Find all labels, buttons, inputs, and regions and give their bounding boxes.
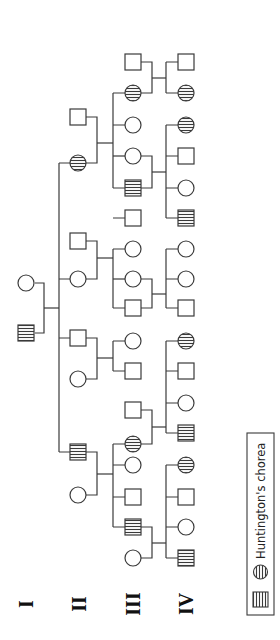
female-unaffected-symbol [178, 180, 194, 196]
generation-labels: I II III IV [15, 592, 197, 616]
generation-1 [18, 275, 34, 341]
male-unaffected-symbol [70, 109, 86, 125]
male-affected-symbol [178, 550, 194, 566]
legend: Huntington's chorea [247, 433, 274, 615]
female-unaffected-symbol [18, 275, 34, 291]
female-unaffected-symbol [178, 395, 194, 411]
female-unaffected-symbol [70, 487, 86, 503]
female-affected-symbol [178, 457, 194, 473]
female-unaffected-symbol [125, 271, 141, 287]
female-unaffected-symbol [125, 333, 141, 349]
male-unaffected-symbol [178, 489, 194, 505]
male-unaffected-symbol [125, 54, 141, 70]
male-unaffected-symbol [70, 330, 86, 346]
generation-4 [178, 54, 194, 566]
female-affected-symbol [178, 85, 194, 101]
pedigree-lines [35, 62, 178, 558]
male-unaffected-symbol [70, 233, 86, 249]
female-affected-symbol [125, 85, 141, 101]
generation-label-4: IV [175, 592, 197, 615]
female-unaffected-symbol [178, 519, 194, 535]
generation-label-2: II [68, 596, 90, 612]
female-unaffected-symbol [178, 271, 194, 287]
generation-3 [125, 54, 141, 566]
male-affected-symbol [178, 210, 194, 226]
legend-affected-female-icon [254, 565, 268, 579]
female-affected-symbol [178, 117, 194, 133]
female-affected-symbol [178, 333, 194, 349]
legend-label: Huntington's chorea [254, 443, 268, 559]
male-unaffected-symbol [125, 210, 141, 226]
male-unaffected-symbol [125, 489, 141, 505]
pedigree-chart: I II III IV Huntington's chorea [0, 0, 280, 640]
female-unaffected-symbol [178, 241, 194, 257]
male-affected-symbol [178, 425, 194, 441]
male-affected-symbol [18, 325, 34, 341]
male-affected-symbol [125, 180, 141, 196]
generation-2 [70, 109, 86, 503]
male-unaffected-symbol [125, 402, 141, 418]
male-unaffected-symbol [178, 148, 194, 164]
female-unaffected-symbol [70, 271, 86, 287]
female-unaffected-symbol [125, 550, 141, 566]
male-unaffected-symbol [125, 300, 141, 316]
female-affected-symbol [125, 436, 141, 452]
male-affected-symbol [70, 444, 86, 460]
male-unaffected-symbol [178, 363, 194, 379]
female-unaffected-symbol [125, 241, 141, 257]
male-affected-symbol [125, 519, 141, 535]
female-unaffected-symbol [125, 117, 141, 133]
female-unaffected-symbol [125, 457, 141, 473]
female-unaffected-symbol [125, 148, 141, 164]
male-unaffected-symbol [125, 363, 141, 379]
male-unaffected-symbol [178, 54, 194, 70]
male-unaffected-symbol [178, 300, 194, 316]
generation-label-1: I [15, 600, 37, 608]
female-unaffected-symbol [70, 371, 86, 387]
legend-affected-male-icon [253, 592, 268, 607]
female-affected-symbol [70, 155, 86, 171]
generation-label-3: III [122, 592, 144, 616]
